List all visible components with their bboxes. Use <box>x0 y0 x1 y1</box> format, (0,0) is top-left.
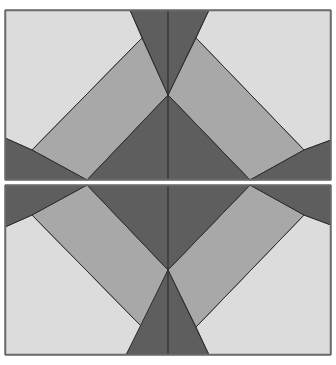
top-panel <box>5 10 331 180</box>
quilt-figure <box>0 0 336 365</box>
bottom-panel <box>5 185 331 355</box>
